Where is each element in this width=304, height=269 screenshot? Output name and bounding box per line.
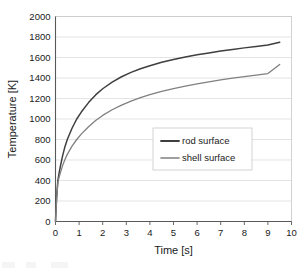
x-tick-label-1: 1 <box>76 227 81 238</box>
legend-label-rod-surface: rod surface <box>182 135 230 146</box>
legend-box <box>153 128 252 170</box>
y-tick-label-200: 200 <box>35 195 51 206</box>
y-tick-label-0: 0 <box>45 216 50 227</box>
page-edge-artifact <box>2 262 86 268</box>
y-tick-label-1400: 1400 <box>29 72 50 83</box>
chart-legend[interactable]: rod surfaceshell surface <box>153 128 252 170</box>
x-tick-label-2: 2 <box>100 227 105 238</box>
y-tick-label-600: 600 <box>35 154 51 165</box>
x-tick-label-9: 9 <box>265 227 270 238</box>
y-tick-label-1800: 1800 <box>29 31 50 42</box>
y-tick-label-2000: 2000 <box>29 11 50 22</box>
y-axis-title: Temperature [K] <box>6 80 18 158</box>
chart-container: 0200400600800100012001400160018002000 01… <box>0 0 304 269</box>
y-tick-label-1000: 1000 <box>29 113 50 124</box>
y-tick-label-1200: 1200 <box>29 93 50 104</box>
x-tick-label-10: 10 <box>286 227 297 238</box>
y-tick-label-400: 400 <box>35 175 51 186</box>
x-axis-title: Time [s] <box>154 244 193 256</box>
x-tick-label-7: 7 <box>218 227 223 238</box>
x-tick-label-5: 5 <box>171 227 176 238</box>
x-tick-label-8: 8 <box>242 227 247 238</box>
x-tick-label-4: 4 <box>147 227 152 238</box>
x-tick-label-0: 0 <box>53 227 58 238</box>
y-tick-label-800: 800 <box>35 134 51 145</box>
x-tick-label-3: 3 <box>124 227 129 238</box>
x-tick-label-6: 6 <box>194 227 199 238</box>
temperature-vs-time-line-chart: 0200400600800100012001400160018002000 01… <box>0 0 304 269</box>
y-tick-label-1600: 1600 <box>29 52 50 63</box>
legend-label-shell-surface: shell surface <box>182 152 235 163</box>
